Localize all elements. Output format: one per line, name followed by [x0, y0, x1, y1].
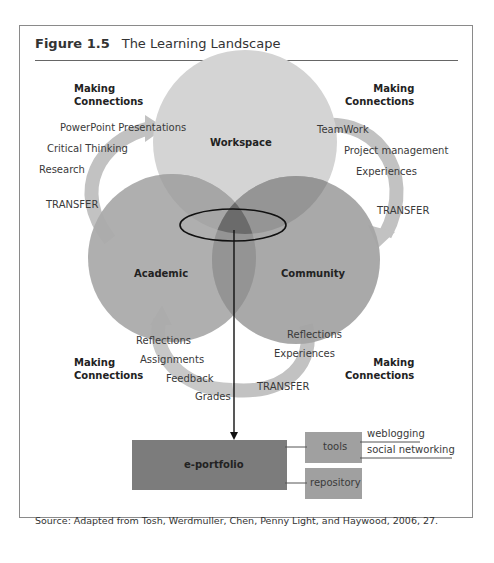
item-experiences-bottom: Experiences [274, 348, 335, 359]
item-assignments: Assignments [140, 354, 204, 365]
label-tools: tools [323, 441, 347, 452]
making-connections-bottom-right: MakingConnections [345, 356, 414, 382]
item-transfer-left: TRANSFER [46, 199, 98, 210]
label-eportfolio: e-portfolio [184, 459, 244, 470]
label-workspace: Workspace [210, 137, 272, 148]
making-connections-top-left: MakingConnections [74, 82, 143, 108]
item-teamwork: TeamWork [317, 124, 369, 135]
making-connections-top-right: MakingConnections [345, 82, 414, 108]
label-social-networking: social networking [367, 444, 455, 455]
item-research: Research [39, 164, 85, 175]
label-weblogging: weblogging [367, 428, 425, 439]
item-transfer-right: TRANSFER [377, 205, 429, 216]
item-experiences-top: Experiences [356, 166, 417, 177]
item-feedback: Feedback [166, 373, 214, 384]
label-community: Community [281, 268, 345, 279]
source-citation: Source: Adapted from Tosh, Werdmuller, C… [35, 515, 438, 526]
label-academic: Academic [134, 268, 188, 279]
item-powerpoint: PowerPoint Presentations [60, 122, 186, 133]
item-grades: Grades [195, 391, 231, 402]
item-reflections-right: Reflections [287, 329, 342, 340]
item-transfer-bottom: TRANSFER [257, 381, 309, 392]
item-project-management: Project management [344, 145, 448, 156]
label-repository: repository [310, 477, 361, 488]
making-connections-bottom-left: MakingConnections [74, 356, 143, 382]
item-reflections-left: Reflections [136, 335, 191, 346]
item-critical-thinking: Critical Thinking [47, 143, 128, 154]
